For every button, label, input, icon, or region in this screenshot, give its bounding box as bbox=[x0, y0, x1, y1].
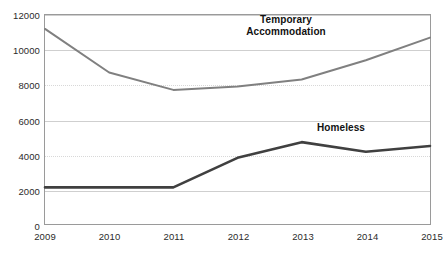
series-group bbox=[45, 15, 430, 224]
series-line-temporary-accommodation bbox=[45, 29, 430, 90]
x-axis-tick-label: 2012 bbox=[228, 231, 250, 242]
series-line-homeless bbox=[45, 142, 430, 187]
y-axis-tick-label: 0 bbox=[35, 221, 40, 232]
x-axis-tick-label: 2013 bbox=[292, 231, 314, 242]
y-axis-tick-label: 6000 bbox=[18, 115, 40, 126]
y-axis-tick-label: 2000 bbox=[18, 185, 40, 196]
series-label-homeless: Homeless bbox=[296, 122, 386, 134]
y-axis-tick-label: 8000 bbox=[18, 80, 40, 91]
caption-text bbox=[6, 249, 186, 257]
plot-area: 020004000600080001000012000 200920102011… bbox=[44, 14, 431, 225]
x-axis-tick-label: 2009 bbox=[34, 231, 56, 242]
y-axis-tick-label: 12000 bbox=[13, 10, 40, 21]
x-axis-tick-label: 2015 bbox=[421, 231, 443, 242]
x-axis-tick-label: 2010 bbox=[99, 231, 121, 242]
x-axis-tick-label: 2014 bbox=[357, 231, 379, 242]
chart-container: 020004000600080001000012000 200920102011… bbox=[0, 0, 443, 261]
y-axis-tick-label: 10000 bbox=[13, 45, 40, 56]
y-axis-tick-label: 4000 bbox=[18, 150, 40, 161]
x-axis-tick-label: 2011 bbox=[164, 231, 185, 242]
series-label-temporary-accommodation: Temporary Accommodation bbox=[226, 14, 346, 38]
